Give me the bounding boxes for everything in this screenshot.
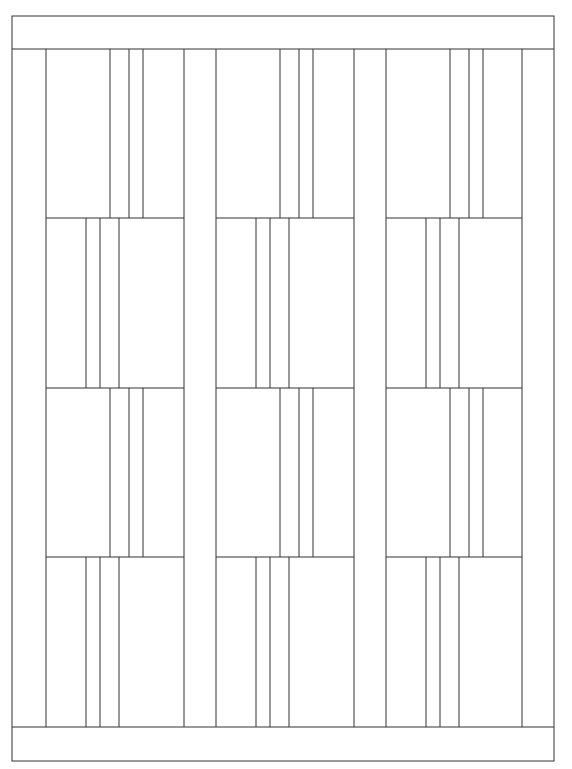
quilt-diagram — [0, 0, 572, 769]
